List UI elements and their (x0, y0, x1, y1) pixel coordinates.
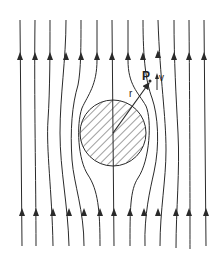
flow-diagram (0, 0, 223, 259)
radius-label: r (129, 88, 132, 99)
streamline-arrows-bottom (19, 208, 209, 216)
point-label: P (142, 69, 150, 83)
velocity-label: v (159, 72, 164, 83)
